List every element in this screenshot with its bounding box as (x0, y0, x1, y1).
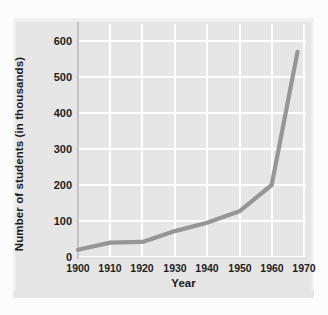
y-tick-label-400: 400 (38, 107, 72, 119)
y-tick-label-600: 600 (38, 35, 72, 47)
x-tick-label-1950: 1950 (223, 262, 257, 274)
chart-figure: 600 500 400 300 200 100 0 1900 1910 1920… (0, 0, 328, 315)
x-tick-label-1920: 1920 (125, 262, 159, 274)
x-tick-label-1930: 1930 (158, 262, 192, 274)
x-tick-label-1940: 1940 (190, 262, 224, 274)
x-tick-label-1910: 1910 (93, 262, 127, 274)
x-axis-title: Year (76, 277, 291, 289)
x-tick-label-1970: 1970 (287, 262, 321, 274)
x-tick-label-1960: 1960 (255, 262, 289, 274)
y-axis-title: Number of students (in thousands) (13, 49, 25, 259)
y-tick-label-300: 300 (38, 143, 72, 155)
x-tick-label-1900: 1900 (61, 262, 95, 274)
y-tick-label-500: 500 (38, 71, 72, 83)
y-tick-label-100: 100 (38, 215, 72, 227)
gridlines-vertical (78, 24, 304, 257)
y-tick-label-200: 200 (38, 179, 72, 191)
